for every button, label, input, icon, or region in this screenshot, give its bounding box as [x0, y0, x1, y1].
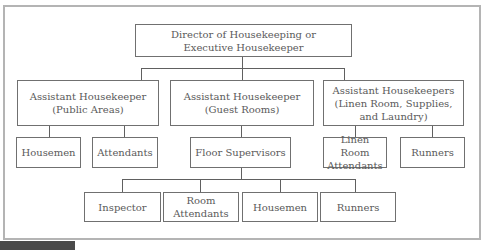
box-text: Linen Room	[326, 133, 384, 159]
box-text: Assistant Housekeeper	[30, 90, 147, 103]
box-text: Runners	[337, 201, 380, 214]
box-text: Attendants	[173, 207, 228, 220]
box-text: (Public Areas)	[30, 103, 147, 116]
box-runners-linen: Runners	[400, 137, 465, 168]
box-text: Inspector	[98, 201, 146, 214]
box-assistant-linen-room: Assistant Housekeepers (Linen Room, Supp…	[323, 80, 464, 126]
connector	[141, 68, 345, 69]
box-housemen-public: Housemen	[16, 137, 81, 168]
box-text: Room	[173, 194, 228, 207]
box-text: Floor Supervisors	[195, 146, 285, 159]
connector	[432, 126, 433, 137]
connector	[122, 179, 123, 192]
connector	[241, 168, 242, 179]
box-housemen-guest: Housemen	[242, 192, 318, 222]
connector	[141, 68, 142, 80]
box-text: Housemen	[21, 146, 75, 159]
connector	[200, 179, 201, 192]
figure-label-tab	[0, 241, 75, 250]
box-assistant-guest-rooms: Assistant Housekeeper (Guest Rooms)	[170, 80, 314, 126]
connector	[355, 179, 356, 192]
box-text: Housemen	[253, 201, 307, 214]
box-assistant-public-areas: Assistant Housekeeper (Public Areas)	[17, 80, 159, 126]
box-text: Assistant Housekeeper	[184, 90, 301, 103]
box-text: Executive Housekeeper	[171, 41, 316, 54]
box-text: (Guest Rooms)	[184, 103, 301, 116]
box-text: and Laundry)	[333, 110, 455, 123]
connector	[280, 179, 281, 192]
connector	[242, 57, 243, 68]
box-attendants-public: Attendants	[92, 137, 158, 168]
box-text: Attendants	[97, 146, 152, 159]
box-linen-room-attendants: Linen Room Attendants	[323, 137, 387, 168]
box-director: Director of Housekeeping or Executive Ho…	[135, 24, 352, 57]
box-floor-supervisors: Floor Supervisors	[190, 137, 291, 168]
box-text: (Linen Room, Supplies,	[333, 97, 455, 110]
box-text: Attendants	[326, 159, 384, 172]
box-text: Runners	[411, 146, 454, 159]
box-runners-guest: Runners	[320, 192, 396, 222]
connector	[242, 68, 243, 80]
box-text: Assistant Housekeepers	[333, 84, 455, 97]
box-room-attendants: Room Attendants	[163, 192, 239, 222]
connector	[344, 68, 345, 80]
connector	[124, 126, 125, 137]
box-text: Director of Housekeeping or	[171, 28, 316, 41]
connector	[241, 126, 242, 137]
connector	[49, 126, 50, 137]
box-inspector: Inspector	[84, 192, 161, 222]
connector	[122, 179, 356, 180]
